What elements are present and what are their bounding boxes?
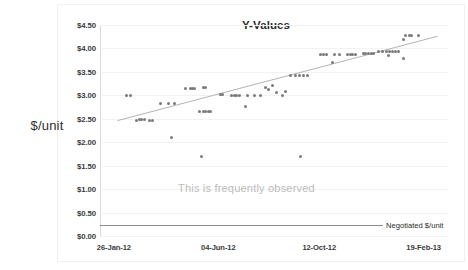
y-axis-tick: $0.50 (54, 208, 96, 217)
y-axis-tick: $1.50 (54, 161, 96, 170)
data-point (387, 54, 390, 57)
data-point (402, 38, 405, 41)
y-axis-tick: $2.50 (54, 114, 96, 123)
data-point (275, 91, 278, 94)
data-point (209, 110, 212, 113)
trendline-segment (117, 36, 437, 120)
data-point (294, 74, 297, 77)
data-point (244, 105, 247, 108)
data-point (299, 155, 302, 158)
y-axis-tick: $4.00 (54, 44, 96, 53)
data-point (259, 94, 262, 97)
data-point (354, 53, 357, 56)
data-point (331, 61, 334, 64)
x-axis-tick-labels: 26-Jan-1204-Jun-1212-Oct-1219-Feb-13 (100, 243, 448, 257)
data-point (338, 53, 341, 56)
y-axis-tick: $4.50 (54, 21, 96, 30)
plot-area (100, 25, 448, 236)
negotiated-reference-line (100, 225, 383, 226)
y-axis-tick: $3.00 (54, 91, 96, 100)
data-point (238, 94, 241, 97)
data-point (200, 155, 203, 158)
negotiated-reference-label: Negotiated $/unit (386, 221, 443, 230)
data-point (325, 53, 328, 56)
data-point (151, 119, 154, 122)
y-axis-tick-labels: $4.50$4.00$3.50$3.00$2.50$2.00$1.50$1.00… (52, 25, 96, 236)
data-point (198, 110, 201, 113)
data-point (170, 136, 173, 139)
data-point (397, 50, 400, 53)
data-point (193, 87, 196, 90)
x-axis-tick: 26-Jan-12 (97, 243, 131, 252)
data-point (385, 50, 388, 53)
data-point (125, 94, 128, 97)
y-axis-tick: $2.00 (54, 138, 96, 147)
y-axis-tick: $0.00 (54, 232, 96, 241)
gridline (100, 236, 448, 237)
data-point (281, 94, 284, 97)
x-axis-tick: 19-Feb-13 (406, 243, 441, 252)
data-point (129, 94, 132, 97)
x-axis-tick: 12-Oct-12 (302, 243, 336, 252)
y-axis-tick: $1.00 (54, 185, 96, 194)
annotation-frequently-observed: This is frequently observed (178, 182, 315, 194)
y-axis-tick: $3.50 (54, 67, 96, 76)
trendline (100, 25, 448, 236)
data-point (143, 118, 146, 121)
x-axis-tick: 04-Jun-12 (201, 243, 236, 252)
chart-container: $/unit Y-Values $4.50$4.00$3.50$3.00$2.5… (0, 0, 468, 270)
